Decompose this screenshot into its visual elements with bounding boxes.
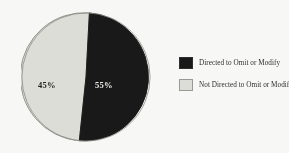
chart-legend: Directed to Omit or Modify Not Directed … — [179, 52, 289, 96]
legend-label-not-directed: Not Directed to Omit or Modify — [199, 81, 289, 89]
legend-swatch-light-icon — [179, 79, 193, 91]
legend-item-not-directed: Not Directed to Omit or Modify — [179, 74, 289, 96]
pie-chart-graphic: 45% 55% — [21, 12, 151, 142]
pie-slice-directed — [79, 13, 148, 141]
pie-svg — [21, 12, 151, 142]
pie-label-not-directed: 45% — [38, 80, 56, 90]
legend-item-directed: Directed to Omit or Modify — [179, 52, 289, 74]
pie-slice-not-directed — [21, 13, 89, 141]
pie-chart-figure: 45% 55% Directed to Omit or Modify Not D… — [0, 0, 289, 153]
pie-label-directed: 55% — [95, 80, 113, 90]
legend-swatch-dark-icon — [179, 57, 193, 69]
legend-label-directed: Directed to Omit or Modify — [199, 59, 280, 67]
